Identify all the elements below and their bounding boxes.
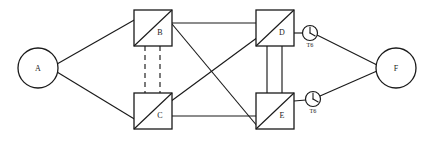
clock-d-label: T6	[307, 41, 314, 48]
node-b[interactable]: B	[134, 10, 172, 46]
node-f[interactable]: F	[376, 48, 416, 88]
node-d[interactable]: D	[256, 10, 294, 46]
node-a[interactable]: A	[18, 48, 58, 88]
node-d-label: D	[279, 28, 285, 37]
node-c[interactable]: C	[134, 93, 172, 129]
edge-a-c	[57, 72, 136, 120]
network-diagram: A B C D E F	[0, 0, 433, 143]
node-e[interactable]: E	[256, 93, 294, 129]
edge-clock-e-f	[320, 71, 377, 96]
edge-e-clock	[294, 100, 306, 101]
node-b-label: B	[157, 28, 162, 37]
clock-icon-e[interactable]: T6	[306, 92, 321, 115]
diagram-canvas: A B C D E F	[0, 0, 433, 143]
node-f-label: F	[394, 64, 399, 73]
node-e-label: E	[280, 111, 285, 120]
edge-layer	[57, 12, 377, 127]
node-a-label: A	[35, 64, 41, 73]
edge-a-b	[57, 19, 136, 64]
clock-e-label: T6	[310, 107, 317, 114]
clock-icon-d[interactable]: T6	[303, 26, 318, 49]
edge-b-e	[172, 24, 258, 127]
node-c-label: C	[157, 111, 162, 120]
edge-clock-d-f	[317, 35, 377, 65]
